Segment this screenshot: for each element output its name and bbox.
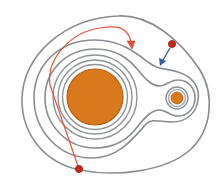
small-body	[171, 92, 183, 104]
particle-bottom-left	[75, 165, 82, 172]
blue-arrow-shaft	[163, 48, 170, 60]
large-body	[67, 69, 123, 125]
two-body-contour-diagram	[0, 0, 220, 184]
blue-arrowhead-icon	[159, 58, 166, 66]
particle-top-right	[168, 40, 175, 47]
